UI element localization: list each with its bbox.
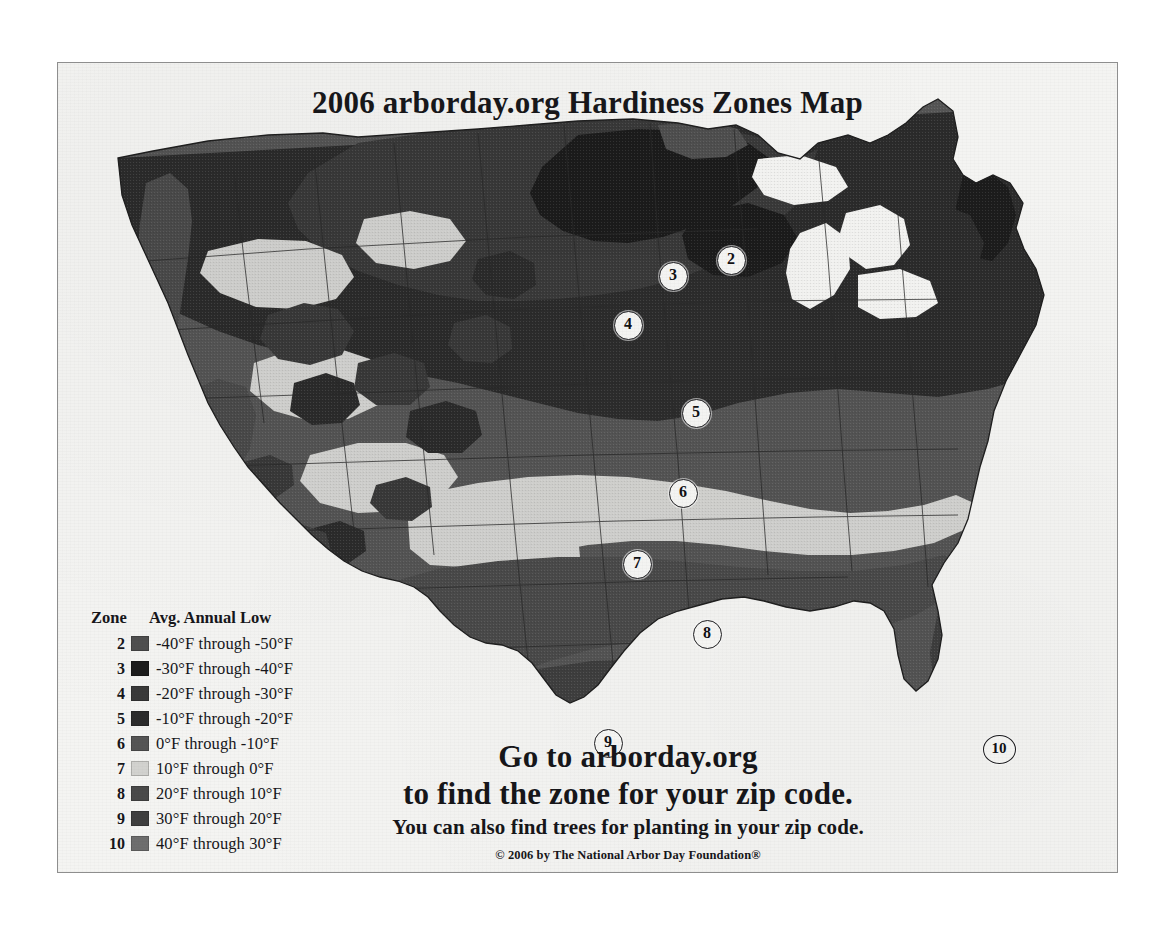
- legend-temperature-range: 10°F through 0°F: [149, 759, 273, 779]
- legend-header: Zone Avg. Annual Low: [91, 608, 293, 628]
- legend-temperature-range: 30°F through 20°F: [149, 809, 282, 829]
- legend-color-swatch: [131, 661, 149, 676]
- legend-color-swatch: [131, 711, 149, 726]
- promo-tagline: You can also find trees for planting in …: [308, 813, 948, 842]
- zone-marker-2: 2: [717, 246, 746, 275]
- zone-marker-8: 8: [693, 620, 722, 649]
- legend-temperature-range: 40°F through 30°F: [149, 834, 282, 854]
- zone-marker-3: 3: [659, 262, 688, 291]
- legend-zone-number: 3: [91, 660, 131, 678]
- legend-header-zone: Zone: [91, 608, 145, 628]
- legend-color-swatch: [131, 811, 149, 826]
- legend-row: 1040°F through 30°F: [91, 831, 293, 856]
- legend-row: 5-10°F through -20°F: [91, 706, 293, 731]
- copyright-notice: © 2006 by The National Arbor Day Foundat…: [308, 845, 948, 865]
- legend-row: 60°F through -10°F: [91, 731, 293, 756]
- legend-temperature-range: -10°F through -20°F: [149, 709, 293, 729]
- promo-block: Go to arborday.org to find the zone for …: [308, 739, 948, 865]
- legend-row: 3-30°F through -40°F: [91, 656, 293, 681]
- legend-zone-number: 6: [91, 735, 131, 753]
- legend-zone-number: 5: [91, 710, 131, 728]
- zone-marker-4: 4: [614, 311, 643, 340]
- legend-row: 820°F through 10°F: [91, 781, 293, 806]
- legend-temperature-range: 0°F through -10°F: [149, 734, 279, 754]
- promo-subheadline: to find the zone for your zip code.: [308, 775, 948, 812]
- legend-row: 4-20°F through -30°F: [91, 681, 293, 706]
- legend-color-swatch: [131, 636, 149, 651]
- legend-temperature-range: -20°F through -30°F: [149, 684, 293, 704]
- page-title: 2006 arborday.org Hardiness Zones Map: [58, 85, 1117, 121]
- legend-zone-number: 9: [91, 810, 131, 828]
- promo-headline: Go to arborday.org: [308, 739, 948, 775]
- legend-zone-number: 2: [91, 635, 131, 653]
- legend-temperature-range: -40°F through -50°F: [149, 634, 293, 654]
- legend-zone-number: 10: [91, 835, 131, 853]
- legend-zone-number: 8: [91, 785, 131, 803]
- zone-marker-10: 10: [983, 735, 1016, 764]
- legend-color-swatch: [131, 836, 149, 851]
- legend-color-swatch: [131, 786, 149, 801]
- legend-color-swatch: [131, 761, 149, 776]
- legend: Zone Avg. Annual Low 2-40°F through -50°…: [91, 608, 293, 856]
- legend-rows: 2-40°F through -50°F3-30°F through -40°F…: [91, 631, 293, 856]
- zone-marker-6: 6: [669, 479, 698, 508]
- hardiness-map-card: 2006 arborday.org Hardiness Zones Map: [57, 62, 1118, 873]
- legend-row: 2-40°F through -50°F: [91, 631, 293, 656]
- zone-marker-5: 5: [682, 399, 711, 428]
- legend-color-swatch: [131, 686, 149, 701]
- legend-zone-number: 4: [91, 685, 131, 703]
- zone-marker-7: 7: [623, 550, 652, 579]
- legend-temperature-range: -30°F through -40°F: [149, 659, 293, 679]
- legend-zone-number: 7: [91, 760, 131, 778]
- legend-row: 710°F through 0°F: [91, 756, 293, 781]
- legend-row: 930°F through 20°F: [91, 806, 293, 831]
- legend-temperature-range: 20°F through 10°F: [149, 784, 282, 804]
- legend-header-temp: Avg. Annual Low: [149, 608, 271, 628]
- legend-color-swatch: [131, 736, 149, 751]
